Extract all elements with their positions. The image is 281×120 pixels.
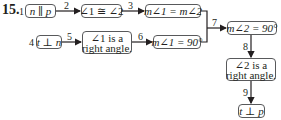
arrow-label-6: 6 (138, 32, 143, 42)
arrow-label-3: 3 (128, 1, 133, 11)
node-text: t ⊥ p (239, 106, 263, 116)
node-angle1-right-angle: ∠1 is a right angle. (82, 31, 132, 54)
node-text-line2: right angle. (226, 70, 276, 80)
node-m-angle1-equals-m-angle2: m∠1 = m∠2 (145, 4, 201, 18)
node-text: t ⊥ n (37, 37, 61, 47)
node-text-line2: right angle. (82, 43, 132, 53)
arrow-label-7: 7 (212, 18, 217, 28)
node-m-angle2-90: m∠2 = 90° (227, 21, 277, 35)
problem-number: 15. (2, 2, 20, 18)
arrow-label-9: 9 (243, 88, 248, 98)
node-n-parallel-p: n ∥ p (25, 4, 56, 18)
node-t-perp-n: t ⊥ n (36, 35, 62, 49)
node-m-angle1-90: m∠1 = 90° (153, 35, 201, 49)
node-text: m∠2 = 90° (227, 23, 278, 33)
node-angle1-congruent-angle2: ∠1 ≅ ∠2 (81, 4, 122, 18)
node-t-perp-p: t ⊥ p (238, 104, 265, 118)
node-text: n ∥ p (30, 6, 52, 16)
step-label-1: 1 (19, 7, 24, 17)
node-angle2-right-angle: ∠2 is a right angle. (226, 58, 276, 81)
step-label-4: 4 (29, 38, 34, 48)
node-text: m∠1 = 90° (152, 37, 203, 47)
node-text: ∠1 ≅ ∠2 (80, 6, 124, 16)
node-text: m∠1 = m∠2 (144, 6, 202, 16)
arrow-label-5: 5 (67, 32, 72, 42)
arrow-label-2: 2 (64, 1, 69, 11)
arrow-label-8: 8 (243, 42, 248, 52)
node-text-line1: ∠1 is a (91, 33, 123, 43)
node-text-line1: ∠2 is a (235, 60, 267, 70)
